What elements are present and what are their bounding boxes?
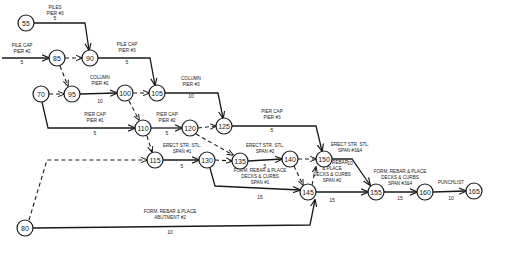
activity-name-line: PIER #3	[182, 82, 200, 87]
event-node-125: 125	[216, 118, 232, 134]
activity-name-line: ABUTMENT #2	[154, 215, 186, 220]
activity-arrow-95-100	[80, 93, 117, 94]
activity-duration: 10	[97, 98, 103, 104]
activity-label: ERECT STR. STL.SPAN #15	[163, 143, 201, 169]
dummy-arrow-140-145	[294, 166, 303, 185]
activity-name-line: PIER #2	[158, 118, 176, 123]
event-number: 155	[370, 189, 382, 196]
event-node-55: 55	[18, 15, 34, 31]
activity-name-line: COLUMN	[181, 76, 201, 81]
event-node-100: 100	[117, 85, 133, 101]
activity-name-line: SPAN #2	[256, 149, 275, 154]
activity-duration: 5	[271, 127, 274, 133]
dummy-arrow-120-125	[198, 126, 216, 128]
activity-label: PIER CAPPIER #35	[261, 109, 282, 133]
event-node-150: 150	[316, 151, 332, 167]
event-number: 105	[151, 90, 163, 97]
activity-name-line: ERECT STR. STL.	[163, 143, 201, 148]
activity-label: FORM, REBAR & PLACEDECKS & CURBSSPAN #11…	[234, 168, 287, 200]
dummy-arrow-110-115	[147, 136, 152, 152]
event-number: 55	[22, 20, 30, 27]
activity-label: FORM, REBAR & PLACEABUTMENT #210	[144, 209, 197, 235]
event-node-145: 145	[300, 184, 316, 200]
event-node-95: 95	[64, 86, 80, 102]
activity-label: PIER CAPPIER #25	[156, 112, 177, 136]
event-number: 90	[86, 55, 94, 62]
event-number: 100	[119, 90, 131, 97]
activity-duration: 5	[21, 59, 24, 65]
activity-name-line: SPAN #2	[323, 178, 342, 183]
event-node-115: 115	[147, 152, 163, 168]
activity-name-line: DECKS & CURBS	[313, 172, 351, 177]
dummy-arrow-120-135	[196, 134, 233, 155]
dummy-arrow-80-115	[29, 160, 147, 220]
activity-label: PIER CAPPIER #15	[84, 112, 105, 136]
activity-name-line: PIER CAP	[156, 112, 177, 117]
activity-duration: 15	[329, 197, 335, 203]
activity-label: PILE CAPPIER #25	[12, 43, 33, 65]
activity-label: FORM, REBAR& PLACEDECKS & CURBSSPAN #215	[313, 160, 351, 203]
activity-name-line: FORM, REBAR & PLACE	[374, 169, 427, 174]
activity-name-line: PIER #1	[86, 118, 104, 123]
event-number: 150	[318, 156, 330, 163]
activity-duration: 5	[94, 130, 97, 136]
event-number: 70	[37, 91, 45, 98]
activity-duration: 15	[257, 194, 263, 200]
activity-label: PUNCHLIST10	[438, 180, 464, 201]
event-number: 135	[234, 158, 246, 165]
activity-name-line: SPAN #1	[173, 149, 192, 154]
activity-duration: 5	[126, 59, 129, 65]
activity-name-line: PIER CAP	[84, 112, 105, 117]
activity-name-line: SPAN #3&4	[388, 181, 413, 186]
activity-name-line: DECKS & CURBS	[381, 175, 419, 180]
event-number: 125	[218, 123, 230, 130]
activity-name-line: PILE CAP	[117, 42, 138, 47]
activity-duration: 10	[188, 93, 194, 99]
activity-label: COLUMNPIER #310	[181, 76, 201, 99]
dummy-arrow-85-95	[60, 66, 68, 86]
activity-name-line: PIER #3	[263, 115, 281, 120]
activity-duration: 5	[181, 163, 184, 169]
event-node-90: 90	[82, 50, 98, 66]
event-node-130: 130	[199, 152, 215, 168]
event-number: 165	[468, 188, 480, 195]
activity-arrow-135-140	[248, 159, 282, 161]
activity-label: COLUMNPIER #210	[90, 75, 110, 104]
dummy-arrow-100-110	[129, 101, 139, 120]
activity-label: ERECT STR. STL.SPAN #25	[246, 143, 284, 169]
activity-arrow-55-90	[34, 23, 89, 50]
activity-name-line: PUNCHLIST	[438, 180, 464, 185]
event-number: 110	[137, 125, 148, 132]
activity-duration: 10	[347, 160, 353, 166]
event-node-85: 85	[49, 50, 65, 66]
activity-label: PILE CAPPIER #35	[117, 42, 138, 65]
event-number: 160	[419, 189, 431, 196]
event-node-155: 155	[368, 184, 384, 200]
activity-name-line: SPAN #1	[251, 180, 270, 185]
event-number: 85	[53, 55, 61, 62]
activity-name-line: PIER #3	[118, 48, 136, 53]
activity-name-line: DECKS & CURBS	[241, 174, 279, 179]
dummy-arrow-130-135	[215, 160, 232, 161]
activity-duration: 5	[166, 130, 169, 136]
event-number: 80	[21, 225, 29, 232]
event-number: 115	[149, 157, 160, 164]
activity-duration: 5	[54, 15, 57, 21]
event-node-105: 105	[149, 85, 165, 101]
activity-name-line: PILES	[48, 5, 61, 10]
event-number: 145	[302, 189, 314, 196]
event-number: 95	[68, 91, 76, 98]
event-node-70: 70	[33, 86, 49, 102]
activity-label: PILESPIER #35	[46, 5, 64, 21]
event-node-160: 160	[417, 184, 433, 200]
event-number: 120	[184, 125, 196, 132]
activity-name-line: PIER CAP	[261, 109, 282, 114]
activity-name-line: PIER #2	[13, 49, 31, 54]
activity-name-line: SPAN #3&4	[338, 148, 363, 153]
activity-arrow-160-165	[433, 191, 466, 192]
activity-name-line: ERECT STR. STL.	[246, 143, 284, 148]
event-number: 140	[284, 156, 296, 163]
event-node-80: 80	[17, 220, 33, 236]
activity-name-line: FORM, REBAR & PLACE	[144, 209, 197, 214]
activity-arrow-80-145	[33, 200, 315, 228]
